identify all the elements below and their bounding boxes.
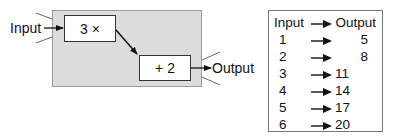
arrow-icon bbox=[311, 53, 333, 63]
operation-label: + 2 bbox=[155, 60, 175, 76]
arrow-icon bbox=[311, 19, 333, 29]
row-output: 17 bbox=[335, 100, 363, 115]
table-row: 1 5 bbox=[269, 32, 382, 48]
table-row: 3 11 bbox=[269, 66, 382, 82]
table-row: 5 17 bbox=[269, 100, 382, 116]
input-label: Input bbox=[10, 20, 41, 36]
row-input: 5 bbox=[279, 100, 287, 115]
header-input: Input bbox=[274, 15, 304, 30]
output-funnel-top bbox=[202, 52, 220, 60]
row-input: 3 bbox=[279, 66, 287, 81]
add-operation-box: + 2 bbox=[139, 55, 191, 81]
input-funnel-top bbox=[36, 13, 52, 19]
row-input: 6 bbox=[279, 117, 287, 132]
multiply-operation-box: 3 × bbox=[64, 15, 116, 42]
row-input: 2 bbox=[279, 49, 287, 64]
row-output: 8 bbox=[340, 49, 368, 64]
table-row: 2 8 bbox=[269, 49, 382, 65]
row-output: 5 bbox=[340, 32, 368, 47]
row-output: 20 bbox=[335, 117, 363, 132]
operation-label: 3 × bbox=[80, 21, 100, 37]
row-output: 11 bbox=[335, 66, 363, 81]
output-label: Output bbox=[212, 60, 254, 76]
arrow-icon bbox=[311, 36, 333, 46]
arrow-icon bbox=[311, 87, 333, 97]
table-header: Input Output bbox=[269, 15, 382, 31]
input-output-table: Input Output 1 5 2 8 3 11 4 14 5 17 6 20 bbox=[268, 10, 383, 132]
arrow-icon bbox=[311, 104, 333, 114]
table-row: 4 14 bbox=[269, 83, 382, 99]
arrow-icon bbox=[311, 70, 333, 80]
row-input: 1 bbox=[279, 32, 287, 47]
input-funnel-bottom bbox=[36, 37, 52, 43]
arrow-icon bbox=[311, 121, 333, 131]
row-output: 14 bbox=[335, 83, 363, 98]
diagonal-arrow-icon bbox=[116, 30, 137, 54]
row-input: 4 bbox=[279, 83, 287, 98]
table-row: 6 20 bbox=[269, 117, 382, 133]
output-funnel-bottom bbox=[202, 77, 220, 85]
header-output: Output bbox=[335, 15, 376, 30]
